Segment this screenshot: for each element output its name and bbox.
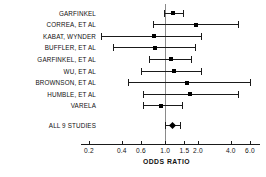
point-estimate-marker — [171, 11, 175, 15]
forest-row — [0, 101, 266, 110]
forest-row — [0, 43, 266, 52]
ci-lower-cap — [128, 79, 129, 86]
x-axis-tick-label: 4.0 — [226, 147, 236, 154]
ci-upper-cap — [250, 79, 251, 86]
forest-row — [0, 32, 266, 41]
x-axis-tick — [122, 141, 123, 144]
ci-upper-cap — [201, 68, 202, 75]
forest-row — [0, 90, 266, 99]
point-estimate-marker — [159, 104, 163, 108]
forest-row — [0, 67, 266, 76]
x-axis-tick-label: 6.0 — [245, 147, 255, 154]
confidence-interval-line — [141, 71, 201, 72]
x-axis-tick-label: 0.4 — [117, 147, 127, 154]
x-axis-tick — [231, 141, 232, 144]
summary-estimate-marker — [169, 122, 176, 129]
x-axis-tick-label: 0.6 — [136, 147, 146, 154]
point-estimate-marker — [172, 69, 176, 73]
x-axis-tick-label: 0.2 — [84, 147, 94, 154]
forest-plot: GARFINKELCORREA, ET ALKABAT, WYNDERBUFFL… — [0, 0, 266, 177]
point-estimate-marker — [152, 34, 156, 38]
x-axis-tick-label: 1.5 — [179, 147, 189, 154]
point-estimate-marker — [194, 23, 198, 27]
ci-lower-cap — [113, 44, 114, 51]
ci-upper-cap — [182, 102, 183, 109]
x-axis-tick — [165, 141, 166, 144]
ci-upper-cap — [191, 56, 192, 63]
forest-row — [0, 121, 266, 130]
point-estimate-marker — [153, 46, 157, 50]
x-axis-tick — [89, 141, 90, 144]
ci-lower-cap — [165, 122, 166, 129]
axis-title: ODDS RATIO — [143, 158, 190, 165]
x-axis-tick-label: 1.0 — [160, 147, 170, 154]
ci-lower-cap — [164, 10, 165, 17]
forest-row — [0, 78, 266, 87]
x-axis-tick — [184, 141, 185, 144]
point-estimate-marker — [169, 57, 173, 61]
ci-lower-cap — [143, 102, 144, 109]
ci-lower-cap — [141, 68, 142, 75]
point-estimate-marker — [185, 81, 189, 85]
ci-upper-cap — [183, 10, 184, 17]
x-axis-tick — [198, 141, 199, 144]
ci-upper-cap — [238, 21, 239, 28]
axis-line — [81, 144, 260, 145]
ci-lower-cap — [101, 33, 102, 40]
ci-lower-cap — [149, 56, 150, 63]
forest-row — [0, 9, 266, 18]
forest-row — [0, 20, 266, 29]
x-axis-tick-label: 2.0 — [193, 147, 203, 154]
x-axis-tick — [141, 141, 142, 144]
ci-upper-cap — [201, 33, 202, 40]
forest-row — [0, 55, 266, 64]
ci-upper-cap — [195, 44, 196, 51]
ci-lower-cap — [143, 91, 144, 98]
ci-lower-cap — [153, 21, 154, 28]
ci-upper-cap — [238, 91, 239, 98]
ci-upper-cap — [180, 122, 181, 129]
x-axis-tick — [250, 141, 251, 144]
point-estimate-marker — [188, 92, 192, 96]
